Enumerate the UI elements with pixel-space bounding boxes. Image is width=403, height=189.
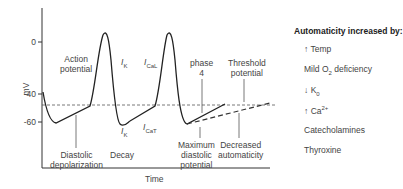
sidebar-item-temp: ↑ Temp xyxy=(304,44,331,54)
y-tick-0: 0 xyxy=(12,37,36,47)
sidebar-title: Automaticity increased by: xyxy=(294,26,403,36)
threshold-potential-label: Threshold potential xyxy=(228,58,266,78)
sidebar-item-thyroxine: Thyroxine xyxy=(304,145,341,155)
sidebar-item-o2: Mild O2 deficiency xyxy=(304,64,372,76)
sidebar-item-catecholamines: Catecholamines xyxy=(304,125,365,135)
maximum-diastolic-potential-label: Maximum diastolic potential xyxy=(178,140,215,170)
y-tick-minus40: -40 xyxy=(12,89,36,99)
ical-label: ICaL xyxy=(144,57,157,69)
sidebar-item-ca: ↑ Ca2+ xyxy=(304,105,328,116)
action-potential-label: Action potential xyxy=(60,54,92,74)
decay-label: Decay xyxy=(110,150,134,160)
x-axis-label: Time xyxy=(145,174,164,184)
decreased-automaticity-line xyxy=(187,103,270,124)
ik-bottom-label: IK xyxy=(121,126,127,138)
decreased-automaticity-label: Decreased automaticity xyxy=(218,140,263,160)
ik-top-label: IK xyxy=(121,57,127,69)
waveform xyxy=(43,33,225,125)
phase4-label: phase 4 xyxy=(190,58,213,78)
diastolic-depolarization-label: Diastolic depolarization xyxy=(50,150,103,170)
icat-label: ICaT xyxy=(143,122,157,134)
y-tick-minus60: -60 xyxy=(12,117,36,127)
sidebar-item-k0: ↓ K0 xyxy=(304,85,320,97)
